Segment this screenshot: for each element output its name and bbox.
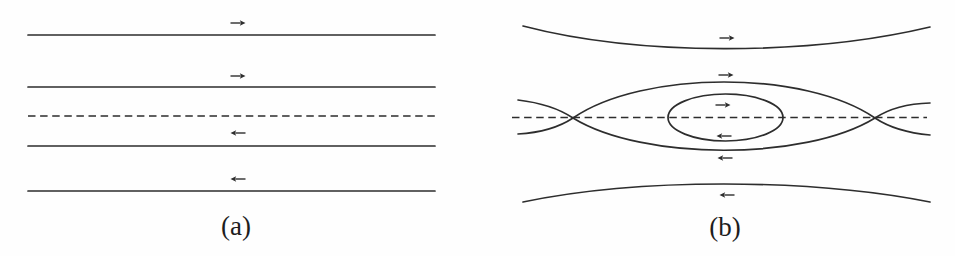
field-direction-arrow-right	[720, 35, 735, 41]
panel-b-label: (b)	[709, 212, 740, 242]
field-direction-arrow-left	[717, 133, 732, 139]
field-direction-arrow-left	[718, 155, 733, 161]
field-lines-a	[28, 35, 435, 191]
diagram-canvas: (a) (b)	[0, 0, 955, 256]
panel-a-label: (a)	[221, 211, 251, 241]
field-direction-arrow-left	[231, 176, 246, 182]
magnetic-field-line-figure: (a) (b)	[0, 0, 955, 256]
field-direction-arrow-right	[719, 72, 734, 78]
field-direction-arrow-right	[716, 102, 731, 108]
field-direction-arrow-right	[231, 20, 246, 26]
field-direction-arrow-left	[720, 192, 735, 198]
separatrix-lower-arc-line	[518, 100, 930, 150]
outer-field-line-bottom	[523, 184, 930, 202]
field-direction-arrow-left	[231, 130, 246, 136]
separatrix-upper-arc-line	[518, 82, 930, 135]
field-direction-arrow-right	[231, 73, 246, 79]
panel-a: (a)	[28, 35, 435, 241]
